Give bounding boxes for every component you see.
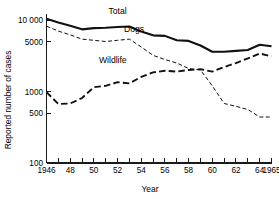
series-line-total bbox=[47, 19, 272, 52]
y-axis-title: Reported number of cases bbox=[3, 51, 13, 150]
y-axis: 10 00050001000500100 bbox=[18, 14, 51, 168]
series-line-wildlife bbox=[47, 54, 272, 104]
rabies-cases-line-chart: 10 00050001000500100 1946485052545658606… bbox=[0, 0, 279, 199]
x-tick-label: 52 bbox=[113, 166, 123, 175]
y-tick-label: 1000 bbox=[25, 88, 44, 97]
series-label-wildlife: Wildlife bbox=[99, 55, 127, 65]
x-tick-label: 1965 bbox=[262, 166, 279, 175]
x-tick-label: 56 bbox=[160, 166, 170, 175]
x-tick-label: 60 bbox=[208, 166, 218, 175]
y-tick-label: 10 000 bbox=[18, 16, 43, 25]
x-axis-title: Year bbox=[142, 184, 159, 194]
y-tick-label: 5000 bbox=[25, 38, 44, 47]
x-axis: 19464850525456586062641965 bbox=[37, 158, 279, 175]
x-tick-label: 54 bbox=[137, 166, 147, 175]
y-tick-label: 500 bbox=[29, 109, 43, 118]
x-tick-label: 1946 bbox=[37, 166, 56, 175]
x-tick-label: 62 bbox=[231, 166, 241, 175]
data-series-group bbox=[47, 19, 272, 117]
x-tick-label: 50 bbox=[89, 166, 99, 175]
x-tick-label: 58 bbox=[184, 166, 194, 175]
series-label-dogs: Dogs bbox=[124, 24, 144, 34]
series-line-dogs bbox=[47, 26, 272, 117]
chart-plot-area: 10 00050001000500100 1946485052545658606… bbox=[0, 0, 279, 199]
x-tick-label: 48 bbox=[66, 166, 76, 175]
series-label-total: Total bbox=[108, 6, 126, 16]
series-inline-labels: TotalDogsWildlife bbox=[99, 6, 144, 65]
